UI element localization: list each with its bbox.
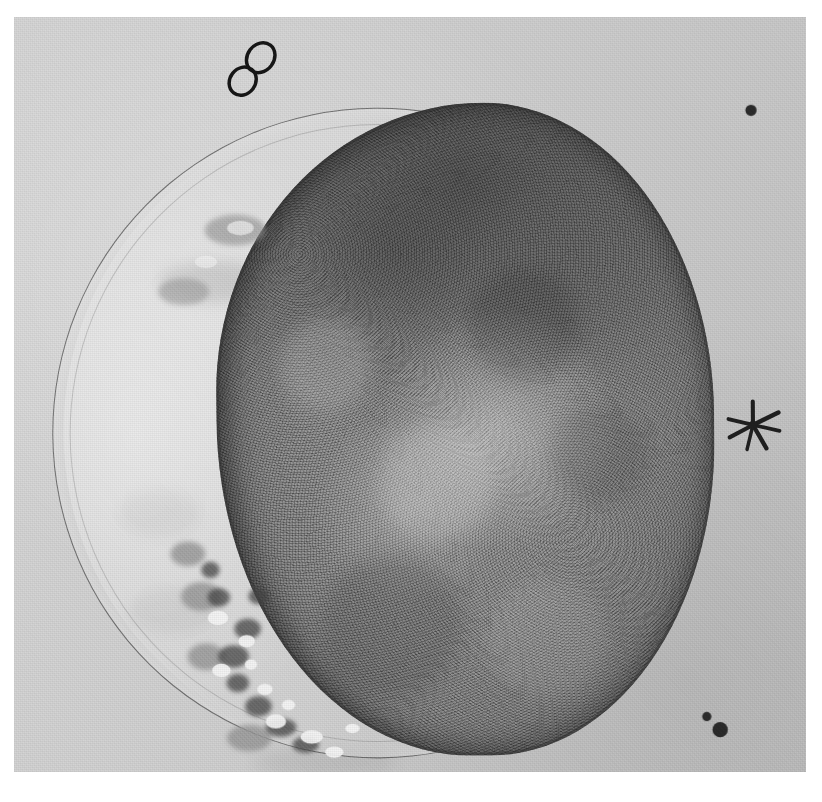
plate-title: Photomicrograph of a spherical cell / ea… — [0, 0, 1, 1]
photograph-print — [14, 17, 806, 772]
figure-eight-ink-mark — [219, 35, 283, 105]
cell-mass-rim — [214, 101, 717, 758]
granular-cell-mass — [214, 101, 717, 758]
micrograph-plate: Photomicrograph of a spherical cell / ea… — [0, 0, 822, 802]
ink-dot-lower-right-large — [712, 722, 727, 737]
ink-dot-upper-right — [745, 105, 756, 116]
print-skew-layer — [14, 17, 806, 772]
asterisk-ink-mark — [720, 392, 786, 458]
ink-dot-lower-right-small — [702, 712, 711, 721]
cell-mass-wrapper — [214, 101, 717, 758]
